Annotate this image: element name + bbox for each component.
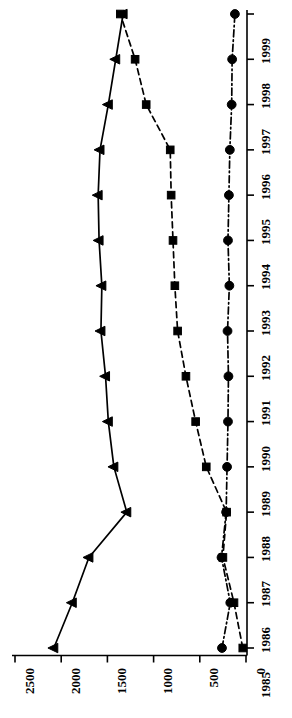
data-point-square xyxy=(166,146,174,154)
data-point-circle xyxy=(222,508,231,517)
data-point-square xyxy=(174,327,182,335)
data-point-square xyxy=(239,644,247,652)
data-point-circle xyxy=(223,462,232,471)
axis-group xyxy=(12,10,254,663)
data-point-triangle xyxy=(48,643,58,653)
value-tick-label: 1000 xyxy=(160,668,176,694)
series-triangle xyxy=(48,9,131,653)
data-point-circle xyxy=(217,553,226,562)
value-tick-label: 2500 xyxy=(22,668,38,694)
series-group xyxy=(48,9,247,653)
year-tick-label: 1994 xyxy=(258,264,274,290)
year-tick-label: 1989 xyxy=(258,491,274,517)
plot-area xyxy=(0,0,292,718)
data-point-square xyxy=(117,10,125,18)
data-point-square xyxy=(131,55,139,63)
data-point-square xyxy=(192,418,200,426)
value-tick-label: 1500 xyxy=(114,668,130,694)
data-point-circle xyxy=(225,145,234,154)
data-point-circle xyxy=(218,644,227,653)
data-point-square xyxy=(167,191,175,199)
data-point-circle xyxy=(228,55,237,64)
data-point-circle xyxy=(223,327,232,336)
series-circle xyxy=(217,10,239,653)
year-tick-label: 1988 xyxy=(258,536,274,562)
value-tick-label: 500 xyxy=(206,668,222,688)
data-point-circle xyxy=(224,372,233,381)
year-tick-label: 1997 xyxy=(258,129,274,155)
data-point-circle xyxy=(231,10,240,19)
data-point-square xyxy=(171,282,179,290)
data-point-square xyxy=(142,101,150,109)
chart-figure: 25002000150010005000 1985198619871988198… xyxy=(0,0,292,718)
data-point-circle xyxy=(225,281,234,290)
data-point-circle xyxy=(226,598,235,607)
year-tick-label: 1986 xyxy=(258,627,274,653)
year-tick-label: 1991 xyxy=(258,400,274,426)
data-point-square xyxy=(202,463,210,471)
year-tick-label: 1985 xyxy=(258,672,274,698)
data-point-triangle xyxy=(92,190,102,200)
data-point-triangle xyxy=(95,326,105,336)
data-point-circle xyxy=(224,236,233,245)
data-point-square xyxy=(182,372,190,380)
year-tick-label: 1999 xyxy=(258,38,274,64)
series-triangle-line xyxy=(54,14,127,648)
data-point-circle xyxy=(224,417,233,426)
year-tick-label: 1996 xyxy=(258,174,274,200)
year-tick-label: 1998 xyxy=(258,83,274,109)
year-tick-label: 1990 xyxy=(258,446,274,472)
year-tick-label: 1993 xyxy=(258,310,274,336)
data-point-circle xyxy=(227,100,236,109)
year-tick-label: 1995 xyxy=(258,219,274,245)
data-point-circle xyxy=(225,191,234,200)
year-tick-label: 1992 xyxy=(258,355,274,381)
year-tick-label: 1987 xyxy=(258,581,274,607)
value-tick-label: 2000 xyxy=(68,668,84,694)
data-point-triangle xyxy=(93,236,103,246)
data-point-square xyxy=(169,237,177,245)
